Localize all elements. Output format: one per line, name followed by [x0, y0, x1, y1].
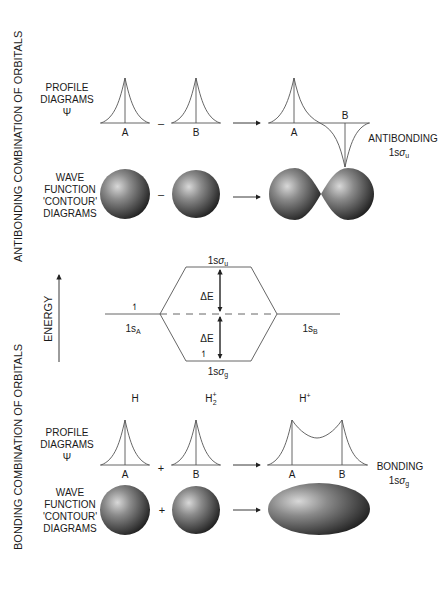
bonding-result-profile: A B	[267, 420, 368, 480]
species-h-label: H	[131, 393, 138, 404]
svg-text:PROFILE: PROFILE	[46, 82, 89, 93]
svg-text:DIAGRAMS: DIAGRAMS	[43, 523, 97, 534]
bonding-orbital-label: 1sσg	[389, 475, 410, 488]
species-hplus-label: H+	[299, 392, 310, 404]
minus-operator: –	[158, 117, 165, 129]
delta-e-upper: ΔE	[200, 291, 214, 302]
sphere-a	[100, 485, 150, 535]
left-atomic-orbital-label: 1sA	[125, 323, 141, 335]
lower-orbital-label: 1sσg	[208, 366, 229, 379]
delta-e-lower: ΔE	[200, 333, 214, 344]
antibonding-profile-label: PROFILE DIAGRAMS Ψ	[40, 82, 94, 118]
energy-level-diagram	[105, 267, 340, 361]
svg-text:FUNCTION: FUNCTION	[44, 184, 96, 195]
bonding-profile-a: A	[100, 420, 150, 480]
svg-text:Ψ: Ψ	[63, 452, 71, 463]
antibonding-result-label: ANTIBONDING	[368, 133, 438, 144]
svg-text:WAVE: WAVE	[56, 172, 85, 183]
svg-text:FUNCTION: FUNCTION	[44, 499, 96, 510]
mo-diagram: ANTIBONDING COMBINATION OF ORBITALS BOND…	[0, 0, 446, 598]
bonding-ellipsoid	[268, 483, 370, 535]
bonding-profile-b: B	[171, 420, 221, 480]
electron-spin-icon: ↿	[200, 349, 208, 359]
svg-text:B: B	[339, 469, 346, 480]
sphere-a	[100, 169, 150, 219]
antibonding-orbital-label: 1sσu	[389, 147, 410, 159]
minus-operator: –	[158, 188, 165, 200]
bonding-side-label: BONDING COMBINATION OF ORBITALS	[12, 344, 24, 550]
antibonding-profile-a: A	[100, 78, 150, 138]
svg-text:A: A	[289, 469, 296, 480]
svg-text:B: B	[342, 110, 349, 121]
antibonding-side-label: ANTIBONDING COMBINATION OF ORBITALS	[12, 31, 24, 262]
svg-text:PROFILE: PROFILE	[46, 427, 89, 438]
svg-text:'CONTOUR': 'CONTOUR'	[43, 196, 97, 207]
bonding-profile-label: PROFILE DIAGRAMS Ψ	[40, 427, 94, 463]
bonding-result-label: BONDING	[377, 461, 424, 472]
sphere-b	[172, 486, 220, 534]
sphere-b	[172, 170, 220, 218]
svg-text:DIAGRAMS: DIAGRAMS	[40, 94, 94, 105]
svg-text:DIAGRAMS: DIAGRAMS	[40, 439, 94, 450]
species-h2plus-label: H+2	[205, 391, 216, 406]
right-atomic-orbital-label: 1sB	[302, 323, 318, 335]
bonding-contour-label: WAVE FUNCTION 'CONTOUR' DIAGRAMS	[43, 487, 97, 534]
antibonding-result-profile: A B	[268, 78, 370, 167]
plus-operator: +	[159, 504, 165, 516]
svg-text:A: A	[122, 127, 129, 138]
svg-text:'CONTOUR': 'CONTOUR'	[43, 511, 97, 522]
svg-text:Ψ: Ψ	[63, 107, 71, 118]
antibonding-profile-b: B	[171, 78, 221, 138]
electron-spin-icon: ↿	[131, 302, 139, 312]
energy-axis-label: ENERGY	[42, 295, 54, 342]
svg-text:B: B	[193, 127, 200, 138]
svg-text:B: B	[193, 469, 200, 480]
svg-text:WAVE: WAVE	[56, 487, 85, 498]
svg-text:A: A	[122, 469, 129, 480]
upper-orbital-label: 1sσu	[208, 255, 229, 267]
svg-text:DIAGRAMS: DIAGRAMS	[43, 208, 97, 219]
svg-text:A: A	[291, 127, 298, 138]
plus-operator: +	[158, 462, 164, 474]
antibonding-contour-label: WAVE FUNCTION 'CONTOUR' DIAGRAMS	[43, 172, 97, 219]
antibonding-dumbbell	[269, 168, 374, 220]
